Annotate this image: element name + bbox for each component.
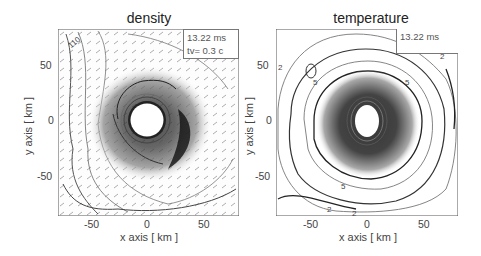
temperature-xlabel: x axis [ km ] <box>339 231 397 243</box>
temperature-contour-label-5a: 5 <box>313 78 317 87</box>
density-time-label: 13.22 ms <box>187 31 235 44</box>
density-velocity-label: tv= 0.3 c <box>187 44 235 57</box>
temperature-ytick-0: 0 <box>266 114 272 126</box>
temperature-contour-label-2a: 2 <box>278 63 282 72</box>
density-title: density <box>117 10 181 26</box>
temperature-contour-label-2c: 2 <box>327 205 331 214</box>
temperature-xtick-50: 50 <box>418 218 430 230</box>
density-ytick-minus50: -50 <box>37 170 52 182</box>
density-xtick-50: 50 <box>198 218 210 230</box>
temperature-ytick-50: 50 <box>257 59 269 71</box>
density-xlabel: x axis [ km ] <box>120 231 178 243</box>
density-xtick-0: 0 <box>144 218 150 230</box>
temperature-title: temperature <box>326 10 416 26</box>
temperature-ytick-minus50: -50 <box>255 170 270 182</box>
temperature-contour-label-5c: 5 <box>341 182 345 191</box>
density-xtick-minus50: -50 <box>84 218 99 230</box>
density-ytick-50: 50 <box>40 59 52 71</box>
temperature-plot <box>276 29 458 216</box>
temperature-annotation-box: 13.22 ms <box>396 29 458 54</box>
temperature-contour-label-2d: 2 <box>352 209 356 218</box>
density-ytick-0: 0 <box>48 114 54 126</box>
density-annotation-box: 13.22 ms tv= 0.3 c <box>183 29 239 59</box>
temperature-ylabel: y axis [ km ] <box>243 97 255 155</box>
temperature-time-label: 13.22 ms <box>400 30 455 43</box>
temperature-xtick-minus50: -50 <box>303 218 318 230</box>
temperature-xtick-0: 0 <box>364 218 370 230</box>
density-ylabel: y axis [ km ] <box>22 97 34 155</box>
temperature-contour-label-5b: 5 <box>405 78 409 87</box>
temperature-contour-label-2b: 2 <box>440 52 444 61</box>
